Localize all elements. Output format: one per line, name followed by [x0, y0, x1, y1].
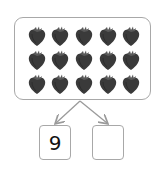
arrow-left — [56, 101, 80, 123]
strawberry-icon — [49, 24, 73, 48]
strawberry-icon — [49, 48, 73, 72]
strawberry-icon — [119, 72, 143, 96]
strawberry-grid — [25, 24, 143, 96]
part-box-left: 9 — [39, 125, 71, 160]
strawberry-icon — [72, 48, 96, 72]
strawberry-icon — [119, 48, 143, 72]
strawberry-icon — [72, 72, 96, 96]
arrow-right — [80, 101, 107, 123]
strawberry-icon — [25, 24, 49, 48]
strawberry-icon — [25, 48, 49, 72]
strawberry-icon — [72, 24, 96, 48]
strawberry-icon — [96, 72, 120, 96]
part-box-right[interactable] — [92, 125, 124, 160]
part-value-left: 9 — [49, 131, 62, 155]
strawberry-icon — [119, 24, 143, 48]
strawberry-icon — [49, 72, 73, 96]
strawberry-icon — [25, 72, 49, 96]
total-group-box — [14, 17, 151, 100]
strawberry-icon — [96, 48, 120, 72]
strawberry-icon — [96, 24, 120, 48]
